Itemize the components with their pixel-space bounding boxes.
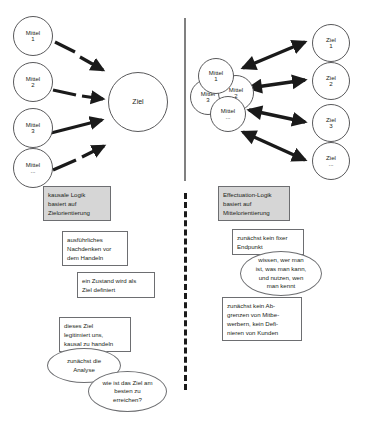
- node-ziel-goal[interactable]: Ziel: [108, 72, 168, 132]
- line: kausal zu handeln: [64, 339, 126, 348]
- line: Zielorientierung: [48, 208, 106, 217]
- line: Analyse: [73, 366, 95, 375]
- line: zunächst kein fixer: [237, 233, 299, 242]
- arrow-cluster-ziel2: [249, 80, 305, 88]
- node-ziel-2[interactable]: Ziel 2: [312, 62, 350, 100]
- line: man kennt: [267, 282, 295, 291]
- line: Mittelorientierung: [223, 208, 285, 217]
- node-mittel-1[interactable]: Mittel 1: [13, 16, 53, 56]
- divider-vertical-solid: [184, 18, 186, 181]
- node-number: 2: [31, 82, 34, 88]
- line: nieren von Kunden: [227, 328, 297, 337]
- textbox-kausale-logik: kausale Logik basiert auf Zielorientieru…: [43, 186, 111, 221]
- arrow-cluster-ziel1: [243, 42, 305, 68]
- line: basiert auf: [48, 199, 106, 208]
- line: kausale Logik: [48, 190, 106, 199]
- textbox-kein-abgrenzen: zunächst kein Ab- grenzen von Mitbe- wer…: [222, 297, 302, 341]
- line: wissen, wer man: [258, 256, 303, 265]
- line: Ziel definiert: [82, 285, 150, 294]
- line: Nachdenken vor: [67, 244, 123, 253]
- node-number: 1: [329, 43, 332, 50]
- node-ziel-1[interactable]: Ziel 1: [312, 24, 350, 62]
- line: grenzen von Mitbe-: [227, 310, 297, 319]
- node-number: 2: [329, 81, 332, 88]
- line: werbern, kein Defi-: [227, 319, 297, 328]
- line: wie ist das Ziel am: [102, 379, 152, 388]
- line: Endpunkt: [237, 242, 299, 251]
- node-ziel-3[interactable]: Ziel 3: [312, 104, 350, 142]
- textbox-zustand-als-ziel: ein Zustand wird als Ziel definiert: [77, 272, 155, 298]
- divider-vertical-dashed: [184, 193, 187, 390]
- ellipse-wissen-wer-man-ist: wissen, wer man ist, was man kann, und n…: [240, 251, 322, 296]
- node-number: 3: [31, 128, 34, 134]
- line: dieses Ziel: [64, 321, 126, 330]
- node-number: 1: [214, 76, 217, 82]
- node-label: Ziel: [132, 98, 143, 105]
- line: basiert auf: [223, 199, 285, 208]
- node-cluster-mittel-1[interactable]: Mittel 1: [198, 58, 234, 94]
- line: erreichen?: [113, 396, 142, 405]
- line: und nutzen, wen: [259, 274, 304, 283]
- line: legitimiert uns,: [64, 330, 126, 339]
- line: ist, was man kann,: [256, 265, 306, 274]
- node-mittel-dots[interactable]: Mittel ...: [13, 148, 53, 188]
- line: zunächst kein Ab-: [227, 301, 297, 310]
- node-number: 3: [206, 97, 209, 103]
- node-number: 3: [329, 123, 332, 130]
- textbox-ausfuehrliches-nachdenken: ausführliches Nachdenken vor dem Handeln: [62, 231, 128, 266]
- line: ausführliches: [67, 235, 123, 244]
- node-ziel-dots[interactable]: Ziel ...: [312, 142, 350, 180]
- node-mittel-3[interactable]: Mittel 3: [13, 108, 53, 148]
- textbox-effectuation-logik: Effectuation-Logik basiert auf Mittelori…: [218, 186, 290, 221]
- node-number: ...: [328, 161, 333, 168]
- node-mittel-2[interactable]: Mittel 2: [13, 62, 53, 102]
- line: Effectuation-Logik: [223, 190, 285, 199]
- line: dem Handeln: [67, 253, 123, 262]
- arrow-cluster-ziel4: [243, 132, 305, 160]
- diagram-canvas: Mittel 1 Mittel 2 Mittel 3 Mittel ... Zi…: [0, 0, 371, 426]
- line: besten zu: [114, 387, 140, 396]
- arrow-cluster-ziel3: [249, 110, 305, 122]
- node-number: 1: [31, 36, 34, 42]
- line: ein Zustand wird als: [82, 276, 150, 285]
- textbox-dieses-ziel-legitimiert: dieses Ziel legitimiert uns, kausal zu h…: [59, 317, 131, 352]
- node-number: ...: [30, 168, 35, 174]
- node-cluster-mittel-dots[interactable]: Mittel ...: [210, 96, 246, 132]
- line: zunächst die: [67, 357, 101, 366]
- node-number: ...: [225, 114, 230, 120]
- ellipse-wie-ziel-erreichen: wie ist das Ziel am besten zu erreichen?: [88, 371, 167, 412]
